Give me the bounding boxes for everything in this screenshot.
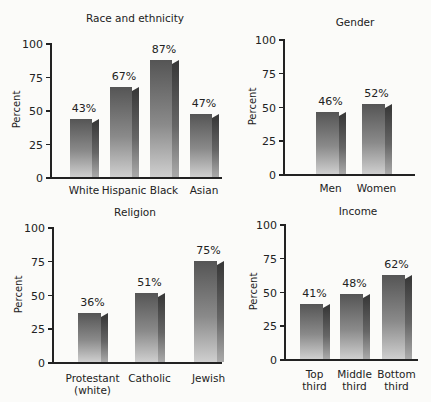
bar-value-label: 62% — [384, 258, 408, 271]
category-label-line: Top — [302, 368, 327, 380]
bar-front — [340, 294, 363, 359]
bar-side — [363, 298, 370, 359]
y-tick — [280, 359, 285, 361]
y-tick-label: 50 — [253, 286, 277, 299]
chart-title: Income — [339, 205, 378, 217]
y-tick — [280, 224, 285, 226]
bar-bevel — [405, 275, 412, 279]
bar-side — [323, 308, 330, 359]
bar — [340, 294, 370, 359]
category-label-line: third — [302, 380, 327, 392]
y-tick-label: 0 — [253, 354, 277, 367]
bar-side — [405, 279, 412, 359]
bar-value-label: 41% — [302, 287, 326, 300]
chart-panel-income: IncomePercent025507510041%Topthird48%Mid… — [0, 0, 431, 402]
category-label-line: third — [377, 380, 416, 392]
x-axis-line — [284, 359, 418, 361]
bar-front — [300, 304, 323, 359]
category-label: Topthird — [302, 368, 327, 392]
bar-value-label: 48% — [342, 277, 366, 290]
y-tick-label: 100 — [253, 219, 277, 232]
category-label-line: third — [337, 380, 372, 392]
bar — [382, 275, 412, 359]
category-label-line: Bottom — [377, 368, 416, 380]
y-tick — [280, 292, 285, 294]
bar-bevel — [323, 304, 330, 308]
category-label: Bottomthird — [377, 368, 416, 392]
category-label-line: Middle — [337, 368, 372, 380]
bar — [300, 304, 330, 359]
y-tick-label: 25 — [253, 320, 277, 333]
bar-front — [382, 275, 405, 359]
y-tick — [280, 258, 285, 260]
y-tick — [280, 325, 285, 327]
bar-bevel — [363, 294, 370, 298]
y-tick-label: 75 — [253, 252, 277, 265]
category-label: Middlethird — [337, 368, 372, 392]
